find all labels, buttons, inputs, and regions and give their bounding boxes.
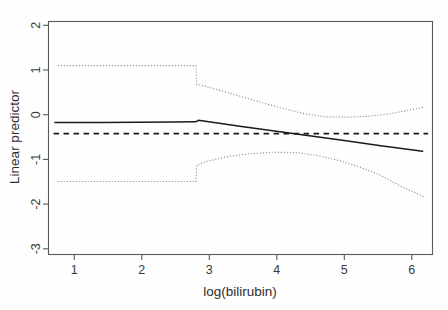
y-tick-label-0: 0 [29,111,43,118]
plot-panel-border [49,22,433,255]
x-axis-ticks [74,255,412,261]
x-tick-label-3: 3 [206,263,213,277]
linear-predictor-plot: 2 1 0 -1 -2 -3 Linear predictor 1 2 3 4 … [0,0,448,310]
y-axis-tick-labels: 2 1 0 -1 -2 -3 [29,22,43,255]
series-solid-line [55,120,423,151]
x-tick-label-4: 4 [273,263,280,277]
y-tick-label-minus3: -3 [29,243,43,254]
series-dotted-line [58,152,424,197]
chart-figure: 2 1 0 -1 -2 -3 Linear predictor 1 2 3 4 … [0,0,448,310]
x-axis-tick-labels: 1 2 3 4 5 6 [71,263,416,277]
y-tick-label-2: 2 [29,22,43,29]
data-series-layer [54,66,429,197]
y-axis-title: Linear predictor [7,90,22,184]
x-tick-label-6: 6 [408,263,415,277]
y-tick-label-minus1: -1 [29,154,43,165]
x-tick-label-2: 2 [138,263,145,277]
x-axis-title: log(bilirubin) [203,284,277,299]
x-tick-label-5: 5 [341,263,348,277]
y-tick-label-minus2: -2 [29,198,43,209]
y-axis-ticks [43,25,49,249]
series-dotted-line [58,66,424,118]
y-tick-label-1: 1 [29,66,43,73]
x-tick-label-1: 1 [71,263,78,277]
